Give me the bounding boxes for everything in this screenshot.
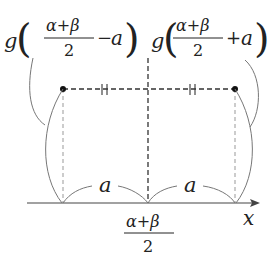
right-label-numerator: α+β (176, 16, 209, 35)
left-paren-open: ( (16, 15, 32, 61)
right-height-brace (235, 89, 252, 203)
right-distance-arc-b (203, 186, 235, 203)
left-label-numerator: α+β (46, 16, 79, 35)
left-label-var: a (111, 26, 123, 50)
left-function-label: g ( α+β 2 − a ) (4, 15, 140, 61)
diagram-canvas: g ( α+β 2 − a ) g ( α+β 2 + a ) a a α+β … (0, 0, 280, 279)
left-distance-arc-a (63, 186, 92, 203)
right-label-denominator: 2 (193, 41, 203, 60)
right-label-op: + (226, 27, 241, 48)
center-value-label: α+β 2 (124, 212, 174, 256)
left-distance-label: a (99, 173, 112, 197)
right-distance-arc-a (148, 186, 177, 203)
left-label-denominator: 2 (64, 41, 74, 60)
left-paren-close: ) (124, 15, 140, 61)
right-label-leader (245, 60, 258, 127)
right-function-label: g ( α+β 2 + a ) (151, 15, 270, 61)
left-height-brace (46, 89, 63, 203)
right-paren-close: ) (254, 15, 270, 61)
center-label-numerator: α+β (126, 212, 159, 231)
right-label-var: a (241, 26, 253, 50)
left-label-op: − (97, 27, 112, 48)
x-axis-label: x (243, 206, 254, 230)
right-distance-label: a (184, 173, 197, 197)
center-label-denominator: 2 (143, 237, 153, 256)
left-distance-arc-b (118, 186, 148, 203)
left-label-leader (30, 58, 45, 125)
